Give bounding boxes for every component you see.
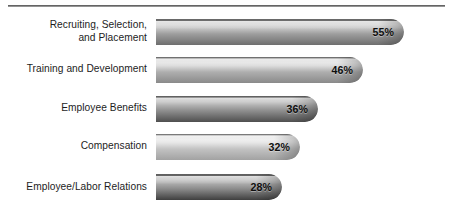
bar-track: 55% — [156, 14, 450, 50]
chart-row: Recruiting, Selection, and Placement 55% — [0, 14, 450, 50]
bar-track: 36% — [156, 92, 450, 125]
bar-chart: Recruiting, Selection, and Placement 55%… — [0, 0, 450, 211]
bar-track: 28% — [156, 169, 450, 205]
chart-row: Compensation 32% — [0, 130, 450, 163]
bar-track: 32% — [156, 130, 450, 163]
bar-value-label: 55% — [364, 26, 394, 38]
bar-value-label: 32% — [260, 141, 290, 153]
category-label: Recruiting, Selection, and Placement — [0, 19, 156, 44]
category-label: Employee Benefits — [0, 102, 156, 115]
chart-row: Employee Benefits 36% — [0, 92, 450, 125]
chart-row: Training and Development 46% — [0, 53, 450, 86]
category-label: Employee/Labor Relations — [0, 181, 156, 194]
category-label: Compensation — [0, 140, 156, 153]
bar-value-label: 28% — [242, 181, 272, 193]
bar-value-label: 36% — [278, 103, 308, 115]
chart-row: Employee/Labor Relations 28% — [0, 169, 450, 205]
bar-track: 46% — [156, 53, 450, 86]
top-divider-rule — [8, 5, 445, 7]
category-label: Training and Development — [0, 63, 156, 76]
bar-value-label: 46% — [323, 64, 353, 76]
